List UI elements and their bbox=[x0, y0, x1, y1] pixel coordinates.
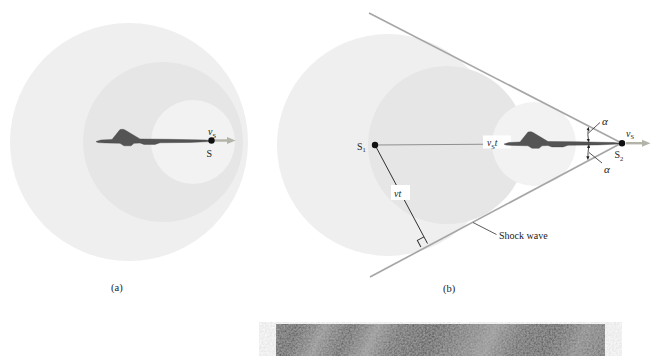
velocity-label-b: vS bbox=[626, 128, 634, 141]
vt-label: vt bbox=[394, 188, 401, 199]
figure-canvas: vS S (a) vSt vt α α bbox=[0, 0, 652, 356]
alpha-label-bottom: α bbox=[604, 163, 610, 175]
shock-wave-photo bbox=[276, 324, 605, 356]
source-label-a: S bbox=[207, 148, 213, 159]
source-point-s2 bbox=[619, 140, 625, 146]
alpha-label-top: α bbox=[602, 115, 608, 127]
source-point-s1 bbox=[372, 142, 378, 148]
source2-label: S2 bbox=[615, 149, 624, 162]
angle-arrow-upper bbox=[588, 129, 589, 141]
caption-b: (b) bbox=[443, 283, 456, 295]
shock-wave-diagram: vS S (a) vSt vt α α bbox=[0, 0, 652, 356]
angle-arrow-lower bbox=[588, 146, 589, 158]
panel-b: vSt vt α α S1 S2 vS Shock wave (b) bbox=[277, 13, 651, 295]
caption-a: (a) bbox=[111, 282, 123, 294]
velocity-arrow-head-b bbox=[642, 140, 651, 147]
panel-a: vS S (a) bbox=[10, 23, 248, 294]
shock-wave-leader bbox=[473, 223, 497, 235]
shock-wave-label: Shock wave bbox=[499, 230, 548, 241]
